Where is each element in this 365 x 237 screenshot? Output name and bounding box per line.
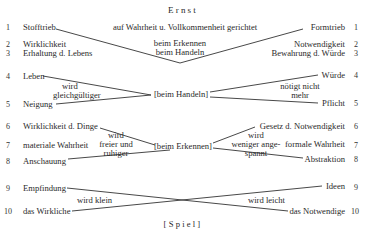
row-number: 7 (354, 141, 358, 150)
row-number: 10 (4, 207, 12, 216)
top-center-line-2: beim Handeln (140, 48, 220, 57)
label-erhaltung: Erhaltung d. Lebens (23, 49, 92, 58)
label-das-wirkliche: das Wirkliche (23, 207, 70, 216)
label-wuerde: Würde (280, 71, 345, 80)
row-number: 4 (354, 71, 358, 80)
label-pflicht: Pflicht (280, 99, 345, 108)
label-materiale-wahrheit: materiale Wahrheit (23, 141, 88, 150)
row-number: 6 (354, 122, 358, 131)
erkennen-right-note-3: spannt (228, 149, 284, 158)
label-ideen: Ideen (290, 182, 345, 191)
row-number: 7 (6, 141, 10, 150)
row-number: 8 (6, 157, 10, 166)
erkennen-left-note-3: ruhiger (96, 149, 136, 158)
row-number: 5 (6, 100, 10, 109)
label-stofftrieb: Stofftrieb (23, 23, 56, 32)
label-abstraktion: Abstraktion (280, 155, 345, 164)
label-formtrieb: Formtrieb (250, 23, 345, 32)
spiel-left-note: wird klein (77, 196, 112, 205)
label-leben: Leben (23, 72, 44, 81)
row-number: 6 (6, 122, 10, 131)
row-number: 10 (351, 207, 359, 216)
row-number: 1 (354, 23, 358, 32)
row-number: 9 (6, 184, 10, 193)
label-bewahrung: Bewahrung d. Würde (240, 49, 345, 58)
row-number: 3 (6, 49, 10, 58)
row-number: 3 (354, 49, 358, 58)
label-anschauung: Anschauung (23, 157, 66, 166)
diagram-title: Ernst (163, 6, 203, 15)
row-number: 4 (6, 72, 10, 81)
row-number: 5 (354, 99, 358, 108)
row-number: 2 (6, 40, 10, 49)
row-number: 1 (6, 23, 10, 32)
label-wirklichkeit-dinge: Wirklichkeit d. Dinge (23, 122, 98, 131)
label-neigung: Neigung (23, 100, 53, 109)
handeln-center: [beim Handeln] (150, 90, 212, 99)
label-das-notwendige: das Notwendige (270, 207, 345, 216)
spiel-right-note: wird leicht (248, 196, 285, 205)
top-subtitle: auf Wahrheit u. Vollkommenheit gerichtet (96, 23, 274, 32)
handeln-left-note-2: gleichgültiger (53, 91, 101, 100)
row-number: 2 (354, 40, 358, 49)
label-empfindung: Empfindung (23, 184, 66, 193)
row-number: 9 (354, 183, 358, 192)
connector-lines (0, 0, 365, 237)
row-number: 8 (354, 155, 358, 164)
footer-spiel: [Spiel] (155, 220, 211, 229)
label-formale-wahrheit: formale Wahrheit (280, 140, 345, 149)
erkennen-center: [beim Erkennen] (150, 142, 216, 151)
